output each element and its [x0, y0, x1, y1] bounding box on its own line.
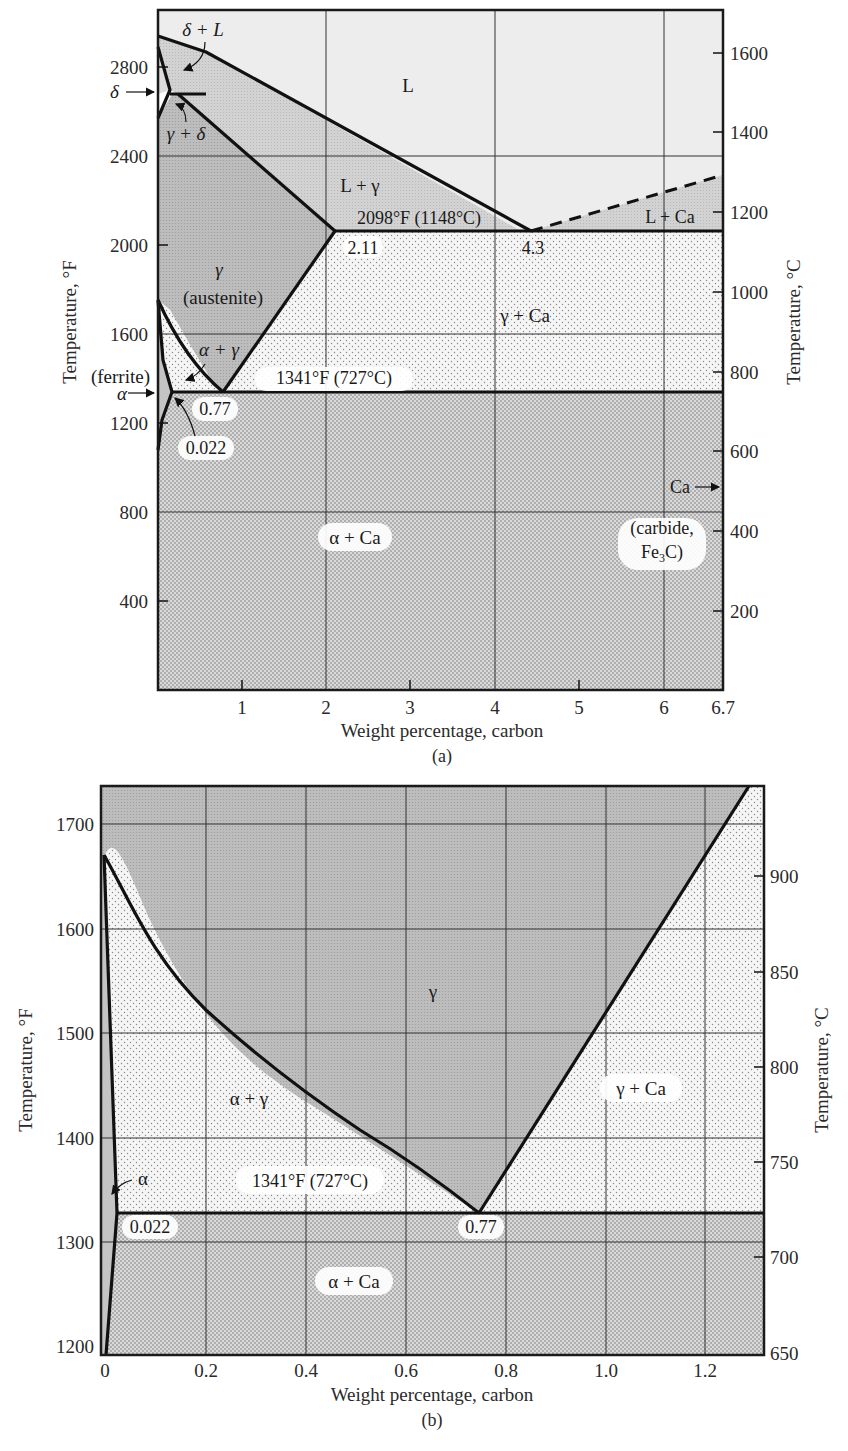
svg-text:0.8: 0.8 — [494, 1360, 518, 1381]
caption-b: (b) — [422, 1410, 443, 1431]
label-b-0-022: 0.022 — [130, 1217, 171, 1237]
svg-text:1600: 1600 — [110, 324, 148, 345]
x-axis-title-b: Weight percentage, carbon — [331, 1384, 534, 1405]
svg-text:1.0: 1.0 — [594, 1360, 618, 1381]
label-eutectoid-temp-a: 1341°F (727°C) — [276, 368, 392, 389]
svg-text:400: 400 — [730, 521, 759, 542]
svg-text:1300: 1300 — [56, 1232, 94, 1253]
y-left-labels-b: 1700 1600 1500 1400 1300 1200 — [56, 814, 94, 1357]
svg-text:5: 5 — [574, 697, 584, 718]
y-right-labels-a: 1600 1400 1200 1000 800 600 400 200 — [730, 43, 768, 622]
label-b-alpha-gamma: α + γ — [230, 1088, 269, 1109]
label-gamma-delta: γ + δ — [167, 123, 207, 144]
y-left-title-a: Temperature, °F — [59, 260, 80, 383]
chart-b: 1700 1600 1500 1400 1300 1200 900 850 80… — [15, 786, 832, 1431]
label-austenite: (austenite) — [183, 287, 263, 309]
label-liquid: L — [402, 75, 414, 96]
svg-text:850: 850 — [770, 962, 799, 983]
x-axis-title-a: Weight percentage, carbon — [341, 720, 544, 741]
label-alpha-gamma: α + γ — [199, 339, 239, 360]
svg-text:1200: 1200 — [56, 1336, 94, 1357]
svg-text:6.7: 6.7 — [711, 697, 735, 718]
label-eutectic-temp: 2098°F (1148°C) — [357, 208, 481, 229]
x-labels-b: 0 0.2 0.4 0.6 0.8 1.0 1.2 — [100, 1360, 717, 1381]
label-b-0-77: 0.77 — [465, 1217, 497, 1237]
svg-text:2000: 2000 — [110, 235, 148, 256]
svg-text:1600: 1600 — [730, 43, 768, 64]
label-b-gamma-ca: γ + Ca — [615, 1078, 666, 1099]
label-carbide: (carbide, — [630, 518, 693, 539]
label-0-77-a: 0.77 — [199, 399, 231, 419]
svg-text:2: 2 — [321, 697, 331, 718]
label-delta-l: δ + L — [182, 19, 224, 40]
svg-text:3: 3 — [405, 697, 415, 718]
svg-text:6: 6 — [659, 697, 669, 718]
svg-text:4: 4 — [490, 697, 500, 718]
label-alpha: α — [117, 383, 128, 404]
region-b-alpha-ca — [101, 1213, 764, 1355]
y-right-labels-b: 900 850 800 750 700 650 — [770, 866, 799, 1364]
svg-text:0: 0 — [100, 1360, 110, 1381]
svg-text:2800: 2800 — [110, 57, 148, 78]
svg-text:700: 700 — [770, 1247, 799, 1268]
y-left-labels-a: 2800 2400 2000 1600 1200 800 400 — [110, 57, 148, 612]
svg-text:1: 1 — [237, 697, 247, 718]
label-l-ca: L + Ca — [645, 207, 694, 227]
label-4-3: 4.3 — [522, 238, 545, 258]
svg-text:1200: 1200 — [110, 413, 148, 434]
y-left-title-b: Temperature, °F — [15, 1008, 36, 1131]
svg-text:1000: 1000 — [730, 282, 768, 303]
x-labels-a: 1 2 3 4 5 6 6.7 — [237, 697, 735, 718]
label-gamma: γ — [215, 259, 223, 280]
svg-text:900: 900 — [770, 866, 799, 887]
svg-text:400: 400 — [120, 591, 149, 612]
phase-diagrams: 2800 2400 2000 1600 1200 800 400 1600 14… — [0, 0, 848, 1451]
label-l-gamma: L + γ — [340, 175, 380, 196]
label-b-alpha-ca: α + Ca — [328, 1271, 380, 1292]
label-0-022-a: 0.022 — [186, 438, 227, 458]
chart-a: 2800 2400 2000 1600 1200 800 400 1600 14… — [59, 10, 804, 767]
label-2-11: 2.11 — [348, 238, 379, 258]
svg-text:2400: 2400 — [110, 146, 148, 167]
svg-text:650: 650 — [770, 1343, 799, 1364]
label-b-alpha: α — [138, 1168, 148, 1189]
svg-text:800: 800 — [730, 362, 759, 383]
label-gamma-ca: γ + Ca — [499, 305, 550, 326]
svg-text:1500: 1500 — [56, 1023, 94, 1044]
svg-text:800: 800 — [770, 1057, 799, 1078]
y-right-title-b: Temperature, °C — [811, 1007, 832, 1133]
y-right-title-a: Temperature, °C — [783, 259, 804, 385]
label-delta: δ — [110, 81, 120, 102]
svg-text:1700: 1700 — [56, 814, 94, 835]
svg-text:0.6: 0.6 — [394, 1360, 418, 1381]
label-b-gamma: γ — [428, 981, 437, 1002]
svg-text:600: 600 — [730, 441, 759, 462]
label-ca: Ca — [670, 477, 690, 497]
svg-text:750: 750 — [770, 1152, 799, 1173]
caption-a: (a) — [432, 746, 452, 767]
svg-text:1600: 1600 — [56, 919, 94, 940]
svg-text:1.2: 1.2 — [693, 1360, 717, 1381]
svg-text:1400: 1400 — [56, 1128, 94, 1149]
label-b-eutectoid-temp: 1341°F (727°C) — [252, 1171, 368, 1192]
svg-text:0.2: 0.2 — [194, 1360, 218, 1381]
svg-text:800: 800 — [120, 502, 149, 523]
svg-text:1400: 1400 — [730, 122, 768, 143]
label-alpha-ca-a: α + Ca — [329, 527, 381, 548]
svg-text:200: 200 — [730, 601, 759, 622]
svg-text:1200: 1200 — [730, 202, 768, 223]
svg-text:0.4: 0.4 — [294, 1360, 318, 1381]
